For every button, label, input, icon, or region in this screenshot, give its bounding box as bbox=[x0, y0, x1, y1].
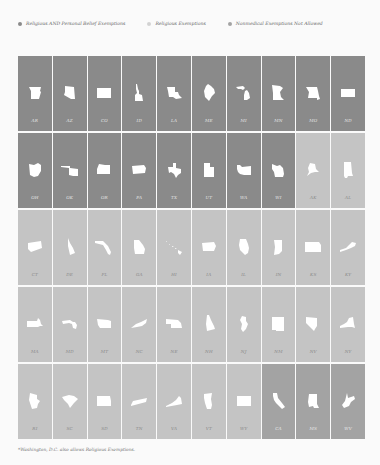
state-shape-or-icon bbox=[88, 155, 122, 185]
state-cell-ia: IA bbox=[192, 210, 226, 285]
state-cell-nm: NM bbox=[262, 287, 296, 362]
state-cell-ks: KS bbox=[296, 210, 330, 285]
state-shape-ma-icon bbox=[18, 309, 52, 339]
state-cell-ut: UT bbox=[192, 133, 226, 208]
state-cell-ak: AK bbox=[296, 133, 330, 208]
state-shape-wi-icon bbox=[262, 155, 296, 185]
state-shape-nh-icon bbox=[192, 309, 226, 339]
state-abbr-label: IL bbox=[227, 272, 261, 277]
state-shape-nm-icon bbox=[262, 309, 296, 339]
state-shape-ne-icon bbox=[157, 309, 191, 339]
state-abbr-label: NE bbox=[157, 349, 191, 354]
state-abbr-label: NH bbox=[192, 349, 226, 354]
state-cell-al: AL bbox=[331, 133, 365, 208]
state-cell-mi: MI bbox=[227, 56, 261, 131]
state-shape-ny-icon bbox=[331, 309, 365, 339]
state-abbr-label: RI bbox=[18, 426, 52, 431]
state-shape-pa-icon bbox=[122, 155, 156, 185]
state-cell-nc: NC bbox=[122, 287, 156, 362]
state-cell-nj: NJ bbox=[227, 287, 261, 362]
state-cell-ms: MS bbox=[296, 364, 330, 439]
state-abbr-label: OH bbox=[18, 195, 52, 200]
state-shape-mi-icon bbox=[227, 78, 261, 108]
state-abbr-label: WY bbox=[227, 426, 261, 431]
state-abbr-label: NM bbox=[262, 349, 296, 354]
state-shape-ct-icon bbox=[18, 232, 52, 262]
legend-label: Nonmedical Exemptions Not Allowed bbox=[236, 21, 323, 26]
state-abbr-label: NJ bbox=[227, 349, 261, 354]
state-cell-mn: MN bbox=[262, 56, 296, 131]
state-cell-ar: AR bbox=[18, 56, 52, 131]
state-cell-mo: MO bbox=[296, 56, 330, 131]
state-shape-az-icon bbox=[53, 78, 87, 108]
legend-label: Religious AND Personal Belief Exemptions bbox=[26, 21, 125, 26]
state-cell-ga: GA bbox=[122, 210, 156, 285]
state-shape-va-icon bbox=[157, 386, 191, 416]
state-shape-ga-icon bbox=[122, 232, 156, 262]
state-cell-sd: SD bbox=[88, 364, 122, 439]
state-shape-ak-icon bbox=[296, 155, 330, 185]
state-abbr-label: MT bbox=[88, 349, 122, 354]
state-cell-pa: PA bbox=[122, 133, 156, 208]
state-abbr-label: FL bbox=[88, 272, 122, 277]
state-shape-me-icon bbox=[192, 78, 226, 108]
state-shape-fl-icon bbox=[88, 232, 122, 262]
state-abbr-label: WV bbox=[331, 426, 365, 431]
state-cell-wv: WV bbox=[331, 364, 365, 439]
state-shape-ca-icon bbox=[262, 386, 296, 416]
state-abbr-label: ME bbox=[192, 118, 226, 123]
state-abbr-label: OR bbox=[88, 195, 122, 200]
state-shape-ks-icon bbox=[296, 232, 330, 262]
state-abbr-label: MI bbox=[227, 118, 261, 123]
state-shape-ok-icon bbox=[53, 155, 87, 185]
state-cell-md: MD bbox=[53, 287, 87, 362]
state-abbr-label: MS bbox=[296, 426, 330, 431]
state-shape-oh-icon bbox=[18, 155, 52, 185]
state-shape-hi-icon bbox=[157, 232, 191, 262]
state-cell-ca: CA bbox=[262, 364, 296, 439]
state-shape-nj-icon bbox=[227, 309, 261, 339]
state-abbr-label: ND bbox=[331, 118, 365, 123]
state-cell-nd: ND bbox=[331, 56, 365, 131]
state-shape-mo-icon bbox=[296, 78, 330, 108]
footnote: *Washington, D.C. also allows Religious … bbox=[18, 447, 135, 452]
state-abbr-label: CA bbox=[262, 426, 296, 431]
state-cell-in: IN bbox=[262, 210, 296, 285]
state-cell-tn: TN bbox=[122, 364, 156, 439]
state-abbr-label: NY bbox=[331, 349, 365, 354]
state-abbr-label: NC bbox=[122, 349, 156, 354]
state-cell-va: VA bbox=[157, 364, 191, 439]
state-cell-wi: WI bbox=[262, 133, 296, 208]
state-cell-az: AZ bbox=[53, 56, 87, 131]
state-abbr-label: NV bbox=[296, 349, 330, 354]
state-grid: ARAZCOIDLAMEMIMNMONDOHOKORPATXUTWAWIAKAL… bbox=[18, 56, 365, 439]
state-shape-la-icon bbox=[157, 78, 191, 108]
legend-dot-icon bbox=[147, 22, 151, 26]
state-cell-vt: VT bbox=[192, 364, 226, 439]
state-abbr-label: MD bbox=[53, 349, 87, 354]
state-abbr-label: WA bbox=[227, 195, 261, 200]
state-abbr-label: IA bbox=[192, 272, 226, 277]
state-abbr-label: AL bbox=[331, 195, 365, 200]
state-shape-ut-icon bbox=[192, 155, 226, 185]
legend-dot-icon bbox=[228, 22, 232, 26]
state-abbr-label: AK bbox=[296, 195, 330, 200]
state-shape-tx-icon bbox=[157, 155, 191, 185]
state-abbr-label: CT bbox=[18, 272, 52, 277]
state-cell-nv: NV bbox=[296, 287, 330, 362]
state-cell-ky: KY bbox=[331, 210, 365, 285]
state-abbr-label: GA bbox=[122, 272, 156, 277]
state-cell-or: OR bbox=[88, 133, 122, 208]
legend-item-religious: Religious Exemptions bbox=[147, 21, 205, 26]
legend-item-religious-and-personal: Religious AND Personal Belief Exemptions bbox=[18, 21, 125, 26]
state-cell-wa: WA bbox=[227, 133, 261, 208]
state-cell-me: ME bbox=[192, 56, 226, 131]
legend: Religious AND Personal Belief Exemptions… bbox=[18, 21, 370, 26]
state-cell-mt: MT bbox=[88, 287, 122, 362]
state-abbr-label: AR bbox=[18, 118, 52, 123]
state-shape-wv-icon bbox=[331, 386, 365, 416]
state-cell-ct: CT bbox=[18, 210, 52, 285]
state-shape-sc-icon bbox=[53, 386, 87, 416]
state-abbr-label: OK bbox=[53, 195, 87, 200]
state-shape-nv-icon bbox=[296, 309, 330, 339]
